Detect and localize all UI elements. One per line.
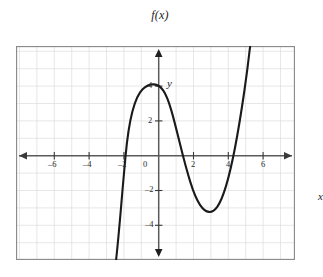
- x-tick-label-2: 2: [191, 159, 195, 169]
- y-tick-label-minus2: –2: [145, 184, 154, 194]
- chart-title: f(x): [0, 8, 320, 23]
- y-tick-label-4: 4: [148, 80, 152, 90]
- x-tick-label-4: 4: [226, 159, 230, 169]
- x-axis-label: x: [318, 190, 323, 202]
- x-tick-label-minus4: –4: [83, 159, 92, 169]
- x-tick-label-6: 6: [261, 159, 265, 169]
- plot-background: [16, 46, 295, 260]
- y-tick-label-minus4: –4: [145, 219, 154, 229]
- x-tick-label-minus2: –2: [118, 159, 127, 169]
- y-axis-label: y: [167, 77, 172, 89]
- x-tick-label-minus6: –6: [48, 159, 57, 169]
- x-tick-label-zero: 0: [143, 159, 147, 169]
- plot-area: y x –6 –4 –2 0 2 4 6 4 2 –2 –4: [16, 46, 295, 260]
- plot-svg: [16, 46, 295, 260]
- y-tick-label-2: 2: [148, 115, 152, 125]
